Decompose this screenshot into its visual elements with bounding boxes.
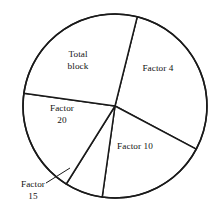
pie-label-total-block: Total block — [48, 49, 108, 72]
pie-label-factor-10: Factor 10 — [105, 141, 165, 153]
pie-chart-figure: Factor 4 Factor 10 Factor 15 Factor 20 T… — [0, 0, 220, 219]
pie-label-factor-4: Factor 4 — [128, 63, 188, 75]
pie-label-factor-15: Factor 15 — [3, 179, 63, 202]
pie-label-factor-20: Factor 20 — [32, 103, 92, 126]
